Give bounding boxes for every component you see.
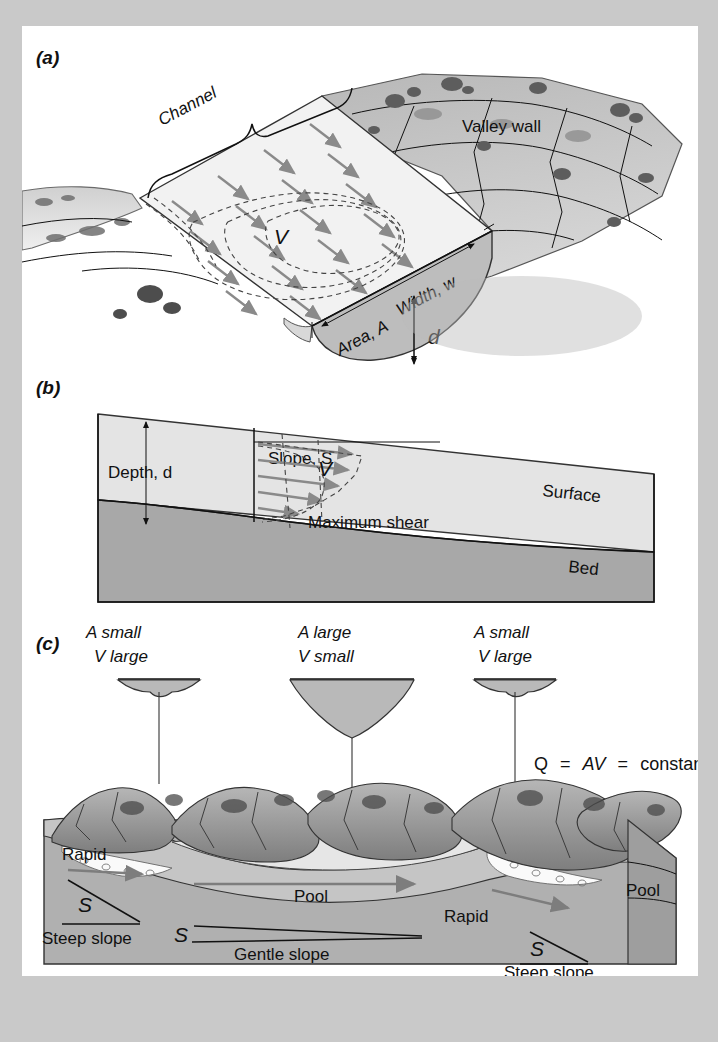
panel-a-letter: (a)	[36, 40, 96, 74]
callout-2-velocity: V small	[298, 647, 355, 666]
callout-3-velocity-text: V large	[478, 647, 532, 666]
panel-b: Slope, S V Depth, d	[22, 356, 698, 616]
label-steep-slope-left: Steep slope	[42, 929, 132, 948]
panel-c-letter: (c)	[36, 626, 96, 660]
label-velocity-v-b: V	[318, 457, 334, 480]
callout-2-velocity-text: V small	[298, 647, 355, 666]
foreground-rocks	[113, 285, 181, 319]
equation-av: AV	[582, 754, 608, 774]
label-s-mid: S	[174, 923, 188, 946]
equation-q: Q	[534, 754, 548, 774]
panel-b-letter: (b)	[36, 370, 96, 404]
figure-sheet: Channel Valley wall V Width, w Area, A d…	[22, 26, 698, 976]
label-pool-right: Pool	[626, 881, 660, 900]
label-pool-center: Pool	[294, 887, 328, 906]
equation-continuity: Q = AV = constant	[534, 754, 698, 774]
label-channel: Channel	[155, 82, 221, 129]
equation-eq2: =	[618, 754, 629, 774]
callout-2-area-text: A large	[297, 623, 351, 642]
panel-c-label: (c)	[36, 633, 59, 654]
label-gentle-slope: Gentle slope	[234, 945, 329, 964]
label-rapid-right: Rapid	[444, 907, 488, 926]
callout-1	[118, 679, 200, 784]
callout-3-area-text: A small	[473, 623, 530, 642]
label-bed: Bed	[568, 557, 600, 579]
callout-3-area: A small	[473, 623, 530, 642]
callout-3-velocity: V large	[478, 647, 532, 666]
equation-eq1: =	[560, 754, 571, 774]
panel-a: Channel Valley wall V Width, w Area, A d	[22, 26, 698, 376]
label-s-right: S	[530, 937, 544, 960]
panel-a-label: (a)	[36, 47, 59, 68]
panel-c: A small V large A large V small A small …	[22, 612, 698, 976]
label-maximum-shear: Maximum shear	[308, 513, 429, 532]
label-valley-wall: Valley wall	[462, 117, 541, 136]
label-s-left: S	[78, 893, 92, 916]
figure-page: Channel Valley wall V Width, w Area, A d…	[0, 0, 718, 1042]
label-velocity-v: V	[274, 225, 290, 248]
label-rapid-left: Rapid	[62, 845, 106, 864]
callout-1-velocity-text: V large	[94, 647, 148, 666]
label-depth-b: Depth, d	[108, 463, 172, 482]
xsection-deep-parabolic	[290, 680, 414, 738]
equation-constant: constant	[640, 754, 698, 774]
callout-1-velocity: V large	[94, 647, 148, 666]
panel-b-label: (b)	[36, 377, 60, 398]
callout-2-area: A large	[297, 623, 351, 642]
label-depth-text: Depth, d	[108, 463, 172, 482]
